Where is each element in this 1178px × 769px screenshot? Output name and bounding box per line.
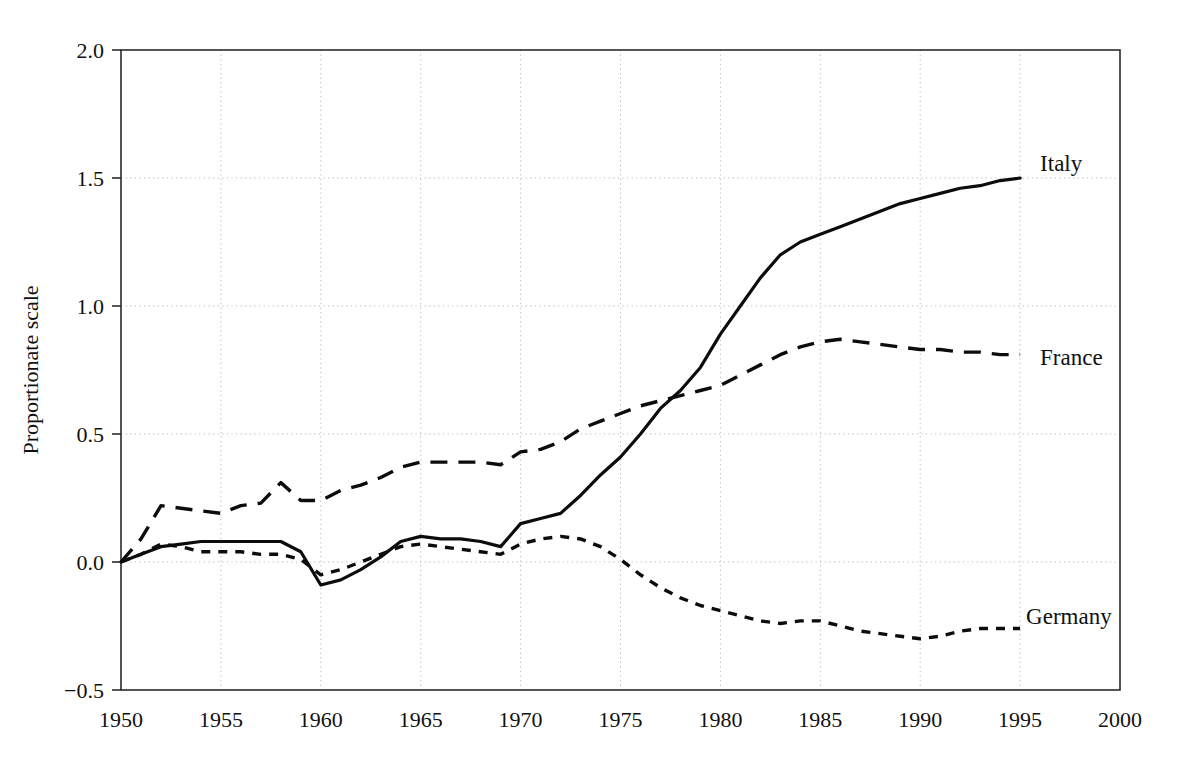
y-tick-label: 2.0	[77, 38, 105, 63]
x-tick-label: 1995	[998, 707, 1042, 732]
y-tick-label: 1.0	[77, 294, 105, 319]
x-tick-label: 1950	[99, 707, 143, 732]
y-tick-label: −0.5	[64, 678, 104, 703]
gridlines	[121, 50, 1120, 690]
x-tick-label: 1955	[199, 707, 243, 732]
x-tick-label: 1975	[599, 707, 643, 732]
series-line-germany	[121, 536, 1020, 638]
x-tick-label: 1970	[499, 707, 543, 732]
y-tick-label: 0.5	[77, 422, 105, 447]
line-chart: −0.50.00.51.01.52.0 19501955196019651970…	[0, 0, 1178, 769]
x-tick-label: 1980	[698, 707, 742, 732]
x-tick-label: 1985	[798, 707, 842, 732]
chart-container: −0.50.00.51.01.52.0 19501955196019651970…	[0, 0, 1178, 769]
x-tick-label: 1960	[299, 707, 343, 732]
series-label-germany: Germany	[1026, 604, 1112, 629]
x-axis-ticks: 1950195519601965197019751980198519901995…	[99, 707, 1142, 732]
x-tick-label: 2000	[1098, 707, 1142, 732]
series-line-france	[121, 339, 1020, 562]
y-tick-label: 1.5	[77, 166, 105, 191]
x-tick-label: 1965	[399, 707, 443, 732]
y-axis-label: Proportionate scale	[18, 285, 43, 454]
series-lines	[121, 178, 1020, 639]
y-tick-label: 0.0	[77, 550, 105, 575]
series-line-italy	[121, 178, 1020, 585]
series-label-france: France	[1040, 345, 1103, 370]
series-annotations: ItalyFranceGermany	[1026, 151, 1112, 629]
y-axis-ticks: −0.50.00.51.01.52.0	[64, 38, 121, 703]
series-label-italy: Italy	[1040, 151, 1083, 176]
x-tick-label: 1990	[898, 707, 942, 732]
